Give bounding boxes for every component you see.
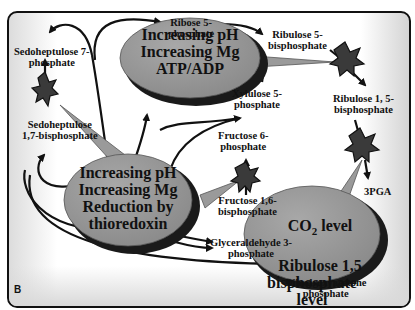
regulator-bubble-top-text: Increasing pH Increasing Mg ATP/ADP: [130, 26, 250, 77]
diagram: Ribose 5- phosphate Ribulose 5- bisphosp…: [0, 0, 415, 310]
enzyme-star-rubisco: [345, 128, 379, 162]
label-sedoheptulose-17-bisphosphate: Sedoheptulose 1,7-bisphosphate: [22, 119, 98, 141]
panel-label: B: [14, 284, 21, 295]
label-xylulose-5-phosphate: Xylulose 5- phosphate: [232, 88, 282, 110]
enzyme-star-prk: [330, 42, 364, 76]
level-text: level: [317, 217, 352, 234]
label-fructose-6-phosphate: Fructose 6- phosphate: [218, 130, 268, 152]
label-ribulose-5-bisphosphate: Ribulose 5- bisphosphate: [268, 29, 327, 51]
regulator-bubble-middle-text: Increasing pH Increasing Mg Reduction by…: [64, 164, 192, 232]
arrow-star-to-3pga: [365, 160, 368, 178]
arrow-to-glyceraldehyde-2: [175, 242, 212, 248]
label-sedoheptulose-7-phosphate: Sedoheptulose 7- phosphate: [14, 46, 90, 68]
arrow-fructose-to-xylulose: [160, 118, 240, 130]
co2-label: CO2 level: [288, 217, 353, 234]
co-text: CO: [288, 217, 312, 234]
enzyme-star-sbpase: [32, 72, 58, 106]
enzyme-star-fbpase: [231, 162, 260, 192]
label-ribulose-15-bisphosphate: Ribulose 1, 5- bisphosphate: [333, 93, 394, 115]
label-3pga: 3PGA: [364, 186, 391, 197]
ribulose-level-text: Ribulose 1,5 bisphosphate level: [267, 257, 362, 308]
regulator-bubble-bottom-text: CO2 level Ribulose 1,5 bisphosphate leve…: [250, 200, 374, 310]
